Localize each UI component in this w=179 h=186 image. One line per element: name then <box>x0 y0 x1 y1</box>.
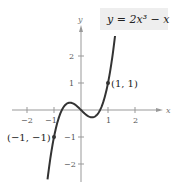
point-1-1 <box>106 81 110 85</box>
y-axis-label: y <box>77 15 83 24</box>
x-tick-label: 2 <box>133 116 138 125</box>
y-tick-label: −1 <box>64 133 76 142</box>
x-tick-label: 1 <box>106 116 111 125</box>
x-tick-label: −2 <box>21 116 33 125</box>
point-neg1-neg1 <box>52 135 56 139</box>
equation-label: y = 2x³ − x <box>106 13 170 26</box>
point-label: (−1, −1) <box>7 132 51 143</box>
y-tick-label: 2 <box>69 52 74 61</box>
y-tick-label: 1 <box>69 79 74 88</box>
point-label: (1, 1) <box>111 78 138 89</box>
x-axis-arrow-icon <box>156 108 163 112</box>
x-axis-label: x <box>166 106 171 115</box>
x-tick-label: −1 <box>45 116 57 125</box>
y-tick-label: −2 <box>64 160 76 169</box>
y-axis-arrow-icon <box>79 25 83 32</box>
cubic-function-graph: y = 2x³ − x x y −2 −1 1 2 2 1 −1 −2 (1, … <box>0 0 179 186</box>
